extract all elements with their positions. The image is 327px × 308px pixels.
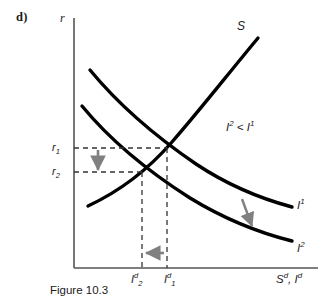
figure-plot xyxy=(0,0,327,308)
y-tick-label-r1: r1 xyxy=(52,142,60,156)
y-tick-r2-sub: 2 xyxy=(56,171,60,180)
figure-container: d) r Sd, Id r1 r2 Id2 Id1 S I1 I2 I2 < I… xyxy=(0,0,327,308)
inequality-annotation: I2 < I1 xyxy=(226,120,254,133)
x-axis-title: Sd, Id xyxy=(276,272,302,285)
curve-label-supply: S xyxy=(237,20,245,32)
curve-label-i2-sup: 2 xyxy=(300,240,304,249)
inequality-right-sup: 1 xyxy=(250,119,254,128)
curve-label-i1-sup: 1 xyxy=(300,197,304,206)
x-axis-title-i-sup: d xyxy=(298,271,302,280)
x-tick-i2-sub: 2 xyxy=(138,279,142,288)
inequality-operator: < xyxy=(237,121,244,133)
x-axis-title-separator: , xyxy=(288,273,291,285)
y-axis-title: r xyxy=(60,12,65,24)
y-tick-label-r2: r2 xyxy=(52,166,60,180)
figure-caption: Figure 10.3 xyxy=(50,285,108,297)
demand-shift-arrow xyxy=(242,199,252,226)
x-tick-label-i1d: Id1 xyxy=(164,272,176,287)
x-tick-i1-sub: 1 xyxy=(171,279,175,288)
curve-label-investment-demand-2: I2 xyxy=(297,241,305,254)
inequality-left-sup: 2 xyxy=(229,119,233,128)
panel-letter: d) xyxy=(16,11,28,24)
curve-label-investment-demand-1: I1 xyxy=(297,198,305,211)
x-axis-title-s-base: S xyxy=(276,273,284,285)
y-tick-r1-sub: 1 xyxy=(56,147,60,156)
x-tick-label-i2d: Id2 xyxy=(131,272,143,287)
